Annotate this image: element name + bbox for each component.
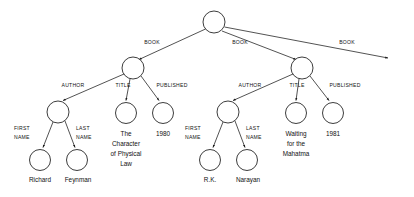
book2-author-node: [217, 101, 239, 123]
book2-node: [291, 57, 313, 79]
book2-title-line-2: Mahatma: [283, 150, 310, 157]
edge-author1-firstname: [43, 122, 53, 148]
edge-author1-lastname: [65, 121, 75, 148]
edge-label-first-1-line2: NAME: [14, 134, 30, 140]
edge-label-book-2: BOOK: [232, 39, 248, 45]
edge-label-book-3: BOOK: [339, 39, 355, 45]
edge-label-published-1: PUBLISHED: [156, 82, 187, 88]
book1-firstname-node: [30, 150, 51, 171]
book1-firstname-value: Richard: [29, 176, 51, 183]
edge-root-book2: [222, 31, 296, 60]
book2-lastname-node: [237, 150, 258, 171]
edge-book2-published: [310, 76, 329, 101]
book1-published-value: 1980: [156, 130, 171, 137]
edge-label-last-2-line2: NAME: [246, 134, 262, 140]
book2-firstname-node: [200, 150, 221, 171]
edge-label-last-1-line2: NAME: [76, 134, 92, 140]
book1-lastname-node: [67, 150, 88, 171]
edge-label-title-1: TITLE: [115, 82, 130, 88]
book1-title-node: [116, 103, 137, 124]
book1-node: [122, 57, 144, 79]
edge-label-first-2-line2: NAME: [185, 134, 201, 140]
book1-title-line-2: of Physical: [111, 150, 142, 158]
edge-book1-published: [141, 76, 159, 101]
book2-firstname-value: R.K.: [204, 176, 217, 183]
root-node: [203, 11, 225, 33]
book2-published-node: [323, 103, 344, 124]
edge-label-first-2-line1: FIRST: [185, 125, 201, 131]
book2-title-node: [286, 103, 307, 124]
edge-root-book3: [225, 27, 389, 58]
book2-lastname-value: Narayan: [236, 176, 261, 184]
edge-label-published-2: PUBLISHED: [329, 82, 360, 88]
edge-author2-lastname: [235, 121, 245, 148]
book1-title-line-0: The: [120, 130, 131, 137]
book1-author-node: [47, 101, 69, 123]
edge-label-book-1: BOOK: [144, 39, 160, 45]
edge-author2-firstname: [213, 122, 223, 148]
edge-label-first-1-line1: FIRST: [14, 125, 30, 131]
edge-label-author-2: AUTHOR: [238, 82, 261, 88]
book1-title-line-1: Character: [112, 140, 141, 147]
edge-label-last-2-line1: LAST: [246, 125, 260, 131]
book2-title-line-0: Waiting: [285, 130, 307, 138]
book1-lastname-value: Feynman: [65, 176, 92, 184]
edge-label-last-1-line1: LAST: [76, 125, 90, 131]
edge-label-title-2: TITLE: [289, 82, 304, 88]
book2-title-line-1: for the: [287, 140, 306, 147]
book2-published-value: 1981: [326, 130, 341, 137]
book1-published-node: [153, 103, 174, 124]
book1-title-line-3: Law: [120, 160, 132, 167]
tree-canvas: BOOK BOOK BOOK AUTHOR TITLE PUBLISHED FI…: [0, 0, 414, 197]
parse-tree-diagram: BOOK BOOK BOOK AUTHOR TITLE PUBLISHED FI…: [0, 0, 414, 197]
edge-label-author-1: AUTHOR: [61, 82, 84, 88]
